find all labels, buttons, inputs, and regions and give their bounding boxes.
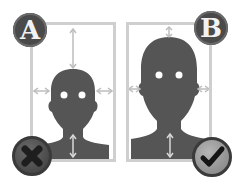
checkmark-icon (195, 140, 229, 174)
x-icon (15, 139, 49, 173)
head-silhouette-b (129, 25, 209, 159)
label-badge-a: A (13, 13, 47, 47)
accept-button[interactable] (192, 137, 232, 177)
reject-button[interactable] (12, 136, 52, 176)
label-badge-b: B (194, 11, 228, 45)
